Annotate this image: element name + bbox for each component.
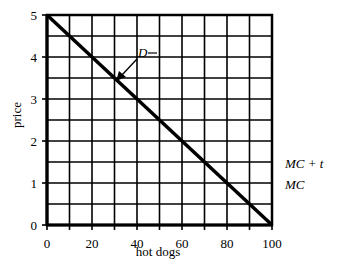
tick-marks — [42, 15, 272, 230]
mc-label: MC — [284, 177, 305, 192]
demand-arrow-shaft — [121, 59, 137, 76]
demand-label: D — [137, 45, 148, 60]
y-tick-label: 4 — [31, 50, 38, 65]
x-tick-label: 100 — [262, 236, 282, 251]
y-axis-title: price — [9, 102, 24, 128]
y-tick-label: 0 — [31, 218, 38, 233]
y-tick-label: 2 — [31, 134, 38, 149]
x-tick-label: 0 — [44, 236, 51, 251]
x-tick-label: 20 — [86, 236, 99, 251]
x-axis-title: hot dogs — [136, 244, 180, 259]
y-tick-label: 3 — [31, 92, 38, 107]
y-tick-label: 1 — [31, 176, 38, 191]
tick-labels: 020406080100012345 — [31, 8, 282, 251]
y-tick-label: 5 — [31, 8, 38, 23]
x-tick-label: 80 — [221, 236, 234, 251]
mc-plus-t-label: MC + t — [284, 156, 324, 171]
demand-chart: 020406080100012345 hot dogs price D MC +… — [0, 0, 337, 274]
